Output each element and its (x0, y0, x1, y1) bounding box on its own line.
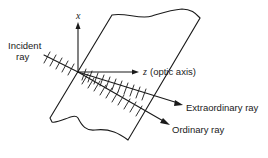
ordinary-wavefronts (82, 74, 142, 116)
incident-ray (44, 55, 78, 72)
extraordinary-arrowhead (174, 100, 183, 106)
x-axis-arrowhead (76, 22, 81, 29)
incident-label-line1: Incident (8, 40, 42, 51)
extraordinary-label: Extraordinary ray (186, 102, 259, 113)
birefringence-diagram: Incident ray x z (optic axis) Extraordin… (0, 0, 268, 158)
incident-label-line2: ray (16, 51, 29, 62)
z-axis-label: z (142, 66, 147, 77)
ordinary-arrowhead (160, 118, 170, 125)
z-axis-arrowhead (132, 70, 139, 75)
x-axis-label: x (75, 10, 81, 21)
z-axis-suffix: (optic axis) (150, 66, 196, 77)
ordinary-label: Ordinary ray (172, 124, 225, 135)
extraordinary-wavefronts (82, 69, 146, 100)
ordinary-ray (78, 72, 165, 122)
incident-wavefronts (44, 52, 74, 75)
